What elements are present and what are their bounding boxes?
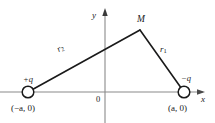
field-point-label: M [137, 15, 145, 25]
segment-r2 [28, 30, 140, 92]
negative-charge-coordinate-label: (a, 0) [168, 104, 187, 113]
distance-r1-label: r1 [160, 45, 167, 55]
y-axis-arrowhead [102, 8, 107, 16]
negative-charge-label: −q [181, 74, 191, 83]
positive-charge-coordinate-label: (−a, 0) [11, 104, 35, 113]
x-axis-label: x [201, 95, 205, 104]
positive-charge-label: +q [23, 75, 33, 84]
negative-charge-circle [178, 86, 190, 98]
dipole-diagram: y x 0 M +q −q (−a, 0) (a, 0) r2 r1 [0, 0, 215, 123]
origin-label: 0 [96, 95, 100, 104]
segment-r1 [140, 30, 184, 92]
y-axis-label: y [92, 11, 96, 20]
distance-r1-subscript: 1 [164, 47, 167, 54]
positive-charge-circle [22, 86, 34, 98]
